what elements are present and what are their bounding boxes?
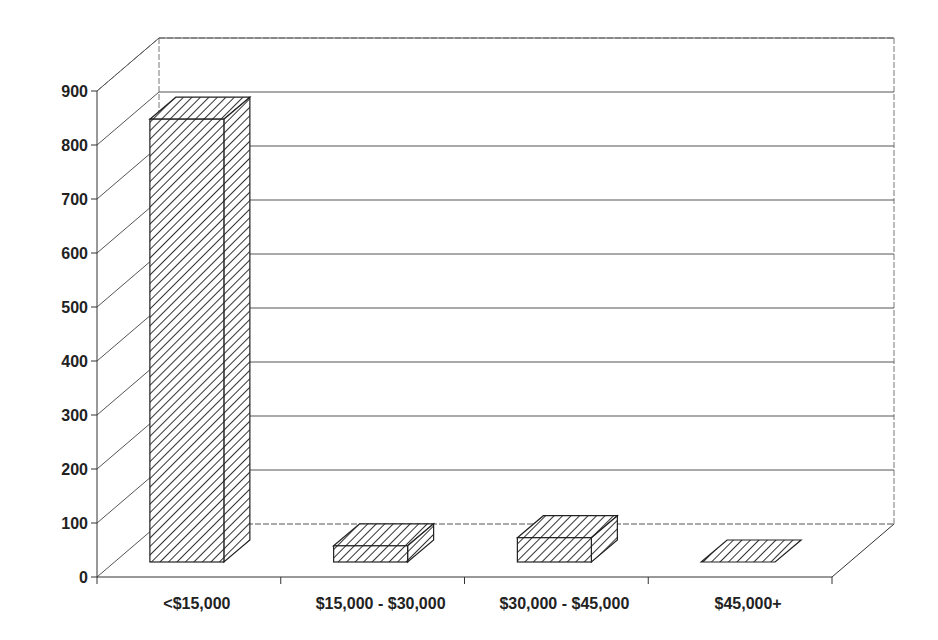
bar [334,524,434,562]
bar-chart: 0100200300400500600700800900 <$15,000$15… [0,0,938,640]
x-category-label: $30,000 - $45,000 [499,595,629,612]
y-tick-label: 500 [61,299,88,316]
bars [150,97,801,562]
y-tick-label: 300 [61,407,88,424]
bar [701,540,801,562]
y-tick-label: 100 [61,515,88,532]
x-category-label: $45,000+ [715,595,782,612]
y-tick-label: 900 [61,83,88,100]
bar [150,97,250,562]
y-tick-label: 600 [61,245,88,262]
y-tick-label: 200 [61,461,88,478]
y-tick-label: 700 [61,191,88,208]
y-tick-label: 400 [61,353,88,370]
y-axis: 0100200300400500600700800900 [61,83,97,586]
x-axis: <$15,000$15,000 - $30,000$30,000 - $45,0… [97,577,832,612]
y-tick-label: 800 [61,137,88,154]
y-tick-label: 0 [79,569,88,586]
x-category-label: <$15,000 [163,595,230,612]
bar [517,516,617,562]
x-category-label: $15,000 - $30,000 [316,595,446,612]
